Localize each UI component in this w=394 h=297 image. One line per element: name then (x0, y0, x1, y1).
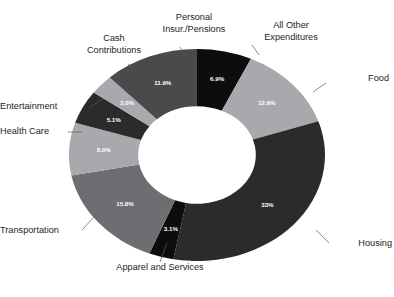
pie-slice-value-label: 6.9% (210, 75, 225, 82)
category-label-all-other-expenditures: All Other Expenditures (250, 20, 332, 43)
donut-chart-svg: 6.9%12.9%33%3.1%15.8%8.0%5.1%3.0%11.9% (0, 0, 394, 297)
pie-slice-value-label: 15.8% (116, 200, 134, 207)
pie-slice-value-label: 8.0% (97, 146, 112, 153)
category-label-personal-insur-pensions: Personal Insur./Pensions (152, 12, 236, 35)
leader-line-transportation (82, 217, 94, 230)
category-label-cash-contributions: Cash Contributions (74, 33, 154, 56)
category-label-entertainment: Entertainment (0, 101, 86, 113)
pie-slice[interactable] (173, 121, 325, 261)
pie-slice-value-label: 3.1% (164, 225, 179, 232)
category-label-health-care: Health Care (0, 126, 64, 138)
category-label-apparel-and-services: Apparel and Services (86, 262, 234, 274)
donut-chart: 6.9%12.9%33%3.1%15.8%8.0%5.1%3.0%11.9% P… (0, 0, 394, 297)
pie-slice-value-label: 3.0% (120, 99, 135, 106)
leader-line-housing (316, 230, 329, 243)
leader-line-all-other-expenditures (252, 45, 259, 55)
pie-slice-value-label: 33% (261, 201, 274, 208)
category-label-food: Food (337, 73, 389, 85)
pie-slice-value-label: 12.9% (258, 99, 276, 106)
pie-slices (69, 49, 325, 261)
category-label-housing: Housing (337, 238, 392, 250)
category-label-transportation: Transportation (0, 225, 78, 237)
leader-line-food (313, 83, 326, 92)
pie-slice-value-label: 11.9% (154, 79, 172, 86)
pie-slice-value-label: 5.1% (107, 116, 122, 123)
